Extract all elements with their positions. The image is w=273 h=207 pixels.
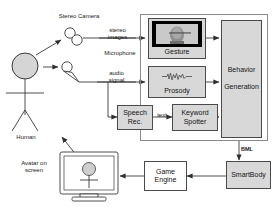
human-left-leg-icon: [12, 110, 25, 131]
speech-rec-label: Speech Rec.: [117, 105, 153, 130]
arrow-human-to-camera: [36, 40, 61, 55]
bml-label: BML: [241, 146, 265, 152]
human-label: Human: [6, 134, 46, 141]
human-right-leg-icon: [25, 110, 38, 131]
stereo-camera-label: Stereo Camera: [48, 13, 110, 20]
stereo-camera-lens-2-icon: [72, 35, 82, 45]
human-head-icon: [12, 53, 38, 79]
monitor-base-icon: [72, 197, 106, 201]
smartbody-label: SmartBody: [226, 161, 271, 189]
microphone-capsule-icon: [62, 62, 72, 72]
avatar-head-icon: [83, 163, 96, 176]
gesture-thumbnail-frame: [152, 21, 202, 47]
diagram-canvas: Stereo Camera Microphone stereo images a…: [0, 0, 273, 207]
behavior-generation-label: Behavior Generation: [221, 20, 262, 138]
microphone-stem-icon: [64, 71, 79, 82]
text-label: text: [153, 112, 171, 119]
keyword-spotter-label: Keyword Spotter: [172, 104, 218, 131]
microphone-label: Microphone: [92, 50, 148, 57]
gesture-face-icon: [156, 24, 198, 44]
avatar-on-screen-label: Avatar on screen: [12, 160, 56, 174]
audio-signal-label: audio signal: [97, 70, 136, 84]
prosody-label: Prosody: [148, 85, 206, 97]
game-engine-label: Game Engine: [144, 161, 187, 191]
gesture-label: Gesture: [148, 47, 206, 58]
stereo-images-label: stereo images: [99, 27, 136, 41]
